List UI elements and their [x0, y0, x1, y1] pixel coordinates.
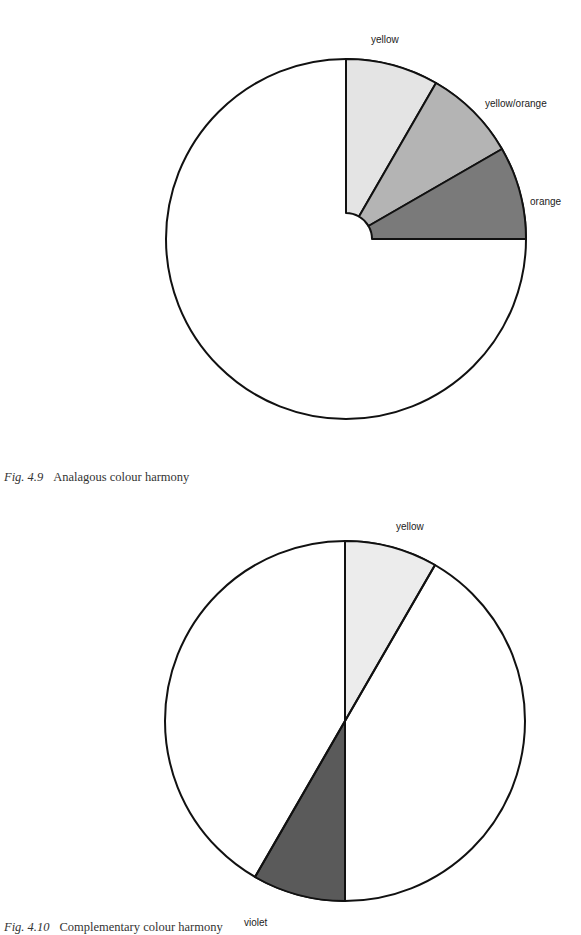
label-yellow-orange: yellow/orange: [485, 98, 547, 109]
label-yellow: yellow: [371, 34, 399, 45]
label-orange: orange: [530, 196, 561, 207]
figure-caption: Fig. 4.10Complementary colour harmony: [4, 920, 223, 935]
pie-chart-analogous: [0, 0, 581, 470]
figure-title: Complementary colour harmony: [59, 920, 222, 934]
figure-complementary-harmony: yellow violet Fig. 4.10Complementary col…: [0, 480, 581, 933]
figure-number: Fig. 4.10: [4, 920, 49, 934]
label-violet: violet: [244, 917, 267, 928]
figure-analogous-harmony: yellow yellow/orange orange Fig. 4.9Anal…: [0, 0, 581, 470]
label-yellow: yellow: [396, 521, 424, 532]
pie-chart-complementary: [0, 480, 581, 933]
